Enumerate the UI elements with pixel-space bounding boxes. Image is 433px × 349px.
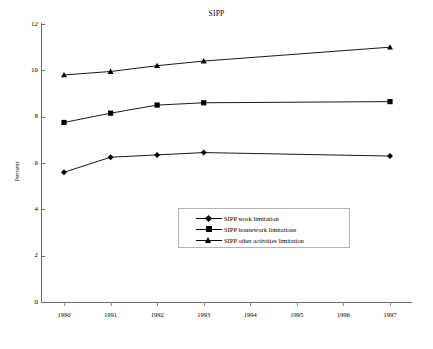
series-diamond [61, 150, 393, 176]
x-tick-label: 1994 [230, 311, 270, 319]
x-tick-mark [157, 302, 158, 306]
x-tick-label: 1995 [277, 311, 317, 319]
x-tick-label: 1992 [137, 311, 177, 319]
y-tick-label: 4 [8, 206, 38, 213]
data-point-marker [201, 100, 206, 105]
data-point-marker [61, 120, 66, 125]
x-tick-mark [297, 302, 298, 306]
legend-marker-square-icon [196, 224, 222, 235]
x-tick-label: 1997 [370, 311, 410, 319]
legend-item[interactable]: SIPP work limitation [179, 213, 349, 224]
data-point-marker [387, 153, 393, 159]
data-point-marker [154, 152, 160, 158]
data-point-marker [61, 72, 67, 77]
y-tick-mark [41, 117, 45, 118]
data-point-marker [108, 154, 114, 160]
series-plot [0, 0, 433, 349]
y-tick-label: 2 [8, 252, 38, 259]
y-tick-mark [41, 209, 45, 210]
data-point-marker [201, 150, 207, 156]
legend-marker [205, 237, 211, 243]
y-tick-label: 8 [8, 113, 38, 120]
legend-item[interactable]: SIPP housework limitations [179, 224, 349, 235]
y-tick-mark [41, 302, 45, 303]
x-tick-label: 1991 [91, 311, 131, 319]
series-line [64, 102, 390, 123]
x-tick-label: 1996 [323, 311, 363, 319]
y-tick-label: 10 [8, 67, 38, 74]
y-tick-label: 0 [8, 299, 38, 306]
legend-marker [205, 215, 212, 222]
y-tick-mark [41, 24, 45, 25]
chart-container: SIPP 024681012 Percent 19901991199219931… [0, 0, 433, 349]
x-tick-mark [343, 302, 344, 306]
data-point-marker [387, 99, 392, 104]
series-square [61, 99, 392, 125]
data-point-marker [61, 169, 67, 175]
x-tick-mark [390, 302, 391, 306]
x-tick-mark [64, 302, 65, 306]
y-tick-mark [41, 163, 45, 164]
x-tick-mark [111, 302, 112, 306]
data-point-marker [387, 44, 393, 49]
data-point-marker [108, 68, 114, 73]
legend-marker-diamond-icon [196, 213, 222, 224]
legend-label: SIPP work limitation [224, 215, 279, 223]
x-tick-mark [204, 302, 205, 306]
chart-title: SIPP [0, 9, 433, 18]
x-tick-label: 1993 [184, 311, 224, 319]
legend-marker-triangle-icon [196, 235, 222, 246]
data-point-marker [154, 63, 160, 68]
y-axis-title: Percent [13, 142, 20, 202]
legend-label: SIPP other activities limitation [224, 237, 304, 245]
legend-marker [206, 226, 212, 232]
y-tick-mark [41, 256, 45, 257]
data-point-marker [201, 58, 207, 63]
x-axis-line [41, 302, 412, 303]
series-line [64, 153, 390, 173]
legend: SIPP work limitationSIPP housework limit… [178, 208, 350, 248]
series-triangle [61, 44, 393, 77]
legend-item[interactable]: SIPP other activities limitation [179, 235, 349, 246]
legend-label: SIPP housework limitations [224, 226, 296, 234]
data-point-marker [155, 102, 160, 107]
x-tick-label: 1990 [44, 311, 84, 319]
y-tick-label: 12 [8, 21, 38, 28]
x-tick-mark [250, 302, 251, 306]
y-tick-mark [41, 70, 45, 71]
data-point-marker [108, 111, 113, 116]
series-line [64, 47, 390, 75]
